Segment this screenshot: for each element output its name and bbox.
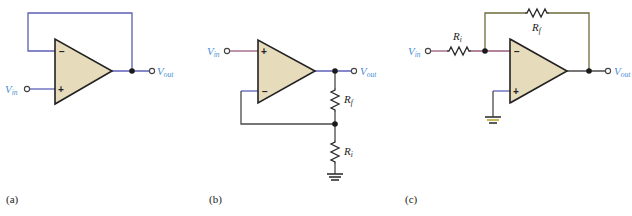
op-amp-circuits-figure: − + Vin Vout + − Vin bbox=[0, 0, 632, 216]
output-terminal bbox=[605, 68, 610, 73]
vin-label: Vin bbox=[207, 45, 220, 59]
noninverting-input-sign: + bbox=[513, 86, 519, 97]
caption-a: (a) bbox=[6, 193, 19, 206]
ground-icon bbox=[485, 117, 501, 123]
output-terminal bbox=[351, 68, 356, 73]
noninverting-input-sign: + bbox=[261, 46, 267, 57]
ri-label: Ri bbox=[343, 145, 353, 159]
rf-label: Rf bbox=[343, 93, 354, 107]
circuit-c: − + Vin Vout Ri Rf bbox=[408, 9, 631, 123]
caption-b: (b) bbox=[209, 193, 222, 206]
inverting-input-sign: − bbox=[262, 86, 268, 97]
circuit-a: − + Vin Vout bbox=[5, 13, 174, 104]
input-terminal bbox=[224, 48, 229, 53]
noninverting-input-sign: + bbox=[58, 84, 64, 95]
inverting-input-sign: − bbox=[514, 46, 520, 57]
resistor-ri bbox=[331, 140, 339, 164]
output-node bbox=[332, 68, 338, 74]
output-node bbox=[129, 68, 135, 74]
resistor-ri bbox=[447, 47, 471, 55]
inverting-input-sign: − bbox=[59, 46, 65, 57]
caption-c: (c) bbox=[405, 193, 418, 206]
input-terminal bbox=[425, 48, 430, 53]
feedback-wire bbox=[241, 91, 335, 124]
circuit-b: + − Vin Vout Rf Ri bbox=[207, 40, 377, 180]
output-terminal bbox=[149, 68, 154, 73]
rf-label: Rf bbox=[531, 21, 542, 35]
vin-label: Vin bbox=[5, 83, 18, 97]
vout-label: Vout bbox=[360, 65, 377, 79]
vout-label: Vout bbox=[157, 65, 174, 79]
output-node bbox=[586, 68, 592, 74]
vin-label: Vin bbox=[408, 45, 421, 59]
ri-label: Ri bbox=[452, 30, 462, 44]
summing-node bbox=[482, 48, 488, 54]
divider-node bbox=[332, 121, 338, 127]
resistor-rf bbox=[331, 88, 339, 112]
resistor-rf bbox=[525, 9, 549, 17]
input-terminal bbox=[24, 86, 29, 91]
vout-label: Vout bbox=[614, 65, 631, 79]
ground-icon bbox=[327, 174, 343, 180]
feedback-wire-right bbox=[549, 13, 589, 71]
